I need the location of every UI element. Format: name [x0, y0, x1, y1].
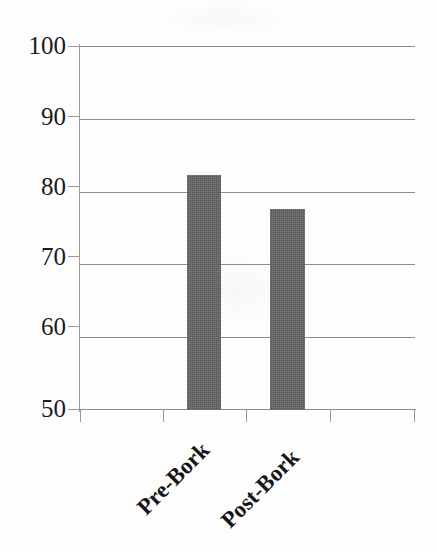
x-axis-tick	[80, 410, 81, 422]
scan-artifact	[165, 2, 285, 36]
y-axis-label-100: 100	[8, 33, 66, 58]
y-axis-label-70: 70	[8, 244, 66, 269]
y-axis-label-60: 60	[8, 314, 66, 339]
gridline-100	[80, 46, 415, 47]
x-axis-tick	[330, 410, 331, 422]
x-axis-tick	[246, 410, 247, 422]
bar-pre-bork[interactable]	[187, 175, 221, 410]
gridline-90	[80, 119, 415, 120]
bar-chart: 100 90 80 70 60 50 Pre-Bork Post-Bork	[0, 0, 437, 552]
gridline-80	[80, 192, 415, 193]
x-axis-tick	[414, 410, 415, 422]
y-axis-label-90: 90	[8, 104, 66, 129]
y-axis-label-80: 80	[8, 174, 66, 199]
x-axis-label-pre-bork: Pre-Bork	[132, 437, 215, 520]
x-axis-label-post-bork: Post-Bork	[216, 445, 305, 534]
bar-post-bork[interactable]	[270, 209, 305, 410]
gridline-60	[80, 337, 415, 338]
plot-area	[80, 46, 415, 410]
gridline-70	[80, 264, 415, 265]
x-axis-tick	[163, 410, 164, 422]
y-axis-label-50: 50	[8, 396, 66, 421]
